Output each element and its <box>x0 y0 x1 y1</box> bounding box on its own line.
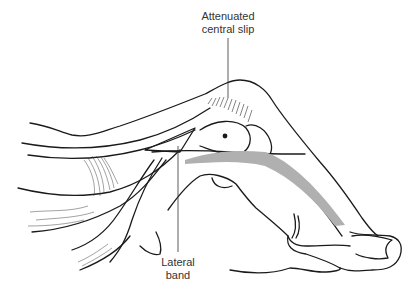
central-slip-label: Attenuated central slip <box>178 10 278 36</box>
volar-skin-outline <box>230 268 340 273</box>
central-slip-label-line1: Attenuated <box>178 10 278 23</box>
central-slip-label-line2: central slip <box>178 23 278 36</box>
lateral-band-label-line2: band <box>148 269 208 282</box>
lateral-band-label-line1: Lateral <box>148 256 208 269</box>
finger-anatomy-drawing <box>0 0 410 294</box>
joint-axis-dot <box>223 134 228 139</box>
lateral-band-label: Lateral band <box>148 256 208 282</box>
nail-outline <box>352 235 392 259</box>
fingertip-outline <box>340 232 401 271</box>
central-slip-hatching <box>208 97 252 122</box>
